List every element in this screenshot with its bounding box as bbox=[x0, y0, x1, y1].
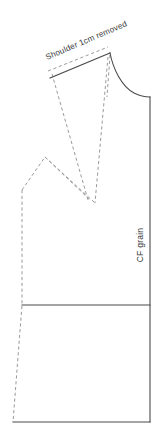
cf-grain-label: CF grain bbox=[135, 228, 145, 263]
sewing-pattern-diagram: Shoulder 1cm removed CF grain bbox=[0, 0, 159, 440]
